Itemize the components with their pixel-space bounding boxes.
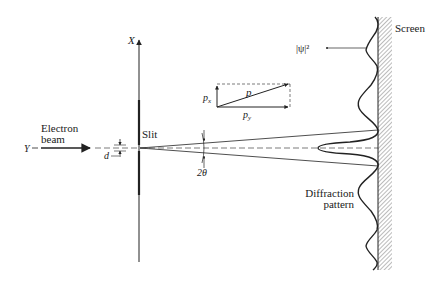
angle-label: 2θ bbox=[197, 167, 207, 178]
screen: Screen bbox=[378, 17, 425, 270]
y-axis-label: Y bbox=[24, 143, 31, 154]
x-axis-label: X bbox=[127, 34, 136, 46]
diffraction-pattern-curve: |ψ|² bbox=[296, 17, 378, 270]
slit-width-label: d bbox=[104, 150, 110, 161]
diffraction-label-line2: pattern bbox=[323, 198, 354, 210]
angle-marker: 2θ bbox=[197, 130, 207, 178]
diffraction-pattern-label: Diffraction pattern bbox=[305, 187, 354, 210]
electron-beam: Electron beam bbox=[41, 122, 90, 148]
psi-squared-label: |ψ|² bbox=[296, 43, 309, 54]
electron-beam-label-line2: beam bbox=[41, 133, 65, 145]
momentum-y-label: py bbox=[242, 109, 252, 122]
screen-label: Screen bbox=[395, 22, 425, 34]
slit-width-marker: d bbox=[104, 139, 126, 161]
single-slit-diffraction-diagram: X Slit Y Electron beam d 2θ bbox=[0, 0, 446, 299]
momentum-vector-diagram: p px py bbox=[202, 84, 290, 122]
momentum-label: p bbox=[245, 86, 252, 98]
slit-label: Slit bbox=[142, 128, 157, 140]
momentum-x-label: px bbox=[202, 92, 212, 105]
